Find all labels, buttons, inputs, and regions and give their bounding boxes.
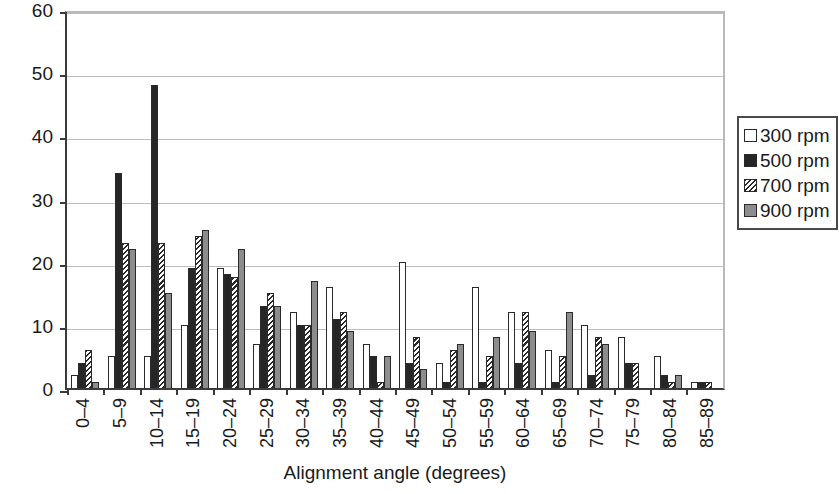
x-tick-mark xyxy=(614,388,616,395)
x-tick-label: 0–4 xyxy=(73,398,94,428)
x-tick-mark xyxy=(504,388,506,395)
x-tick-cell: 35–39 xyxy=(322,398,359,460)
x-tick-cell: 65–69 xyxy=(542,398,579,460)
x-tick-mark xyxy=(395,388,397,395)
y-tick-mark xyxy=(60,391,67,393)
x-tick-mark xyxy=(249,388,251,395)
y-tick-label: 40 xyxy=(0,126,58,148)
x-tick-label: 65–69 xyxy=(550,398,571,448)
bar xyxy=(661,375,668,388)
white-square-icon xyxy=(744,129,757,142)
bar-group xyxy=(67,13,103,388)
bar xyxy=(202,230,209,388)
bar xyxy=(420,369,427,388)
x-tick-mark xyxy=(140,388,142,395)
legend-item-label: 300 rpm xyxy=(760,125,830,147)
x-tick-mark xyxy=(322,388,324,395)
x-tick-mark xyxy=(577,388,579,395)
bar xyxy=(181,325,188,388)
bar xyxy=(297,325,304,388)
bar xyxy=(340,312,347,388)
x-tick-label: 70–74 xyxy=(586,398,607,448)
bar xyxy=(224,274,231,388)
bar xyxy=(698,382,705,388)
bar xyxy=(545,350,552,388)
x-tick-cell: 80–84 xyxy=(652,398,689,460)
bar xyxy=(384,356,391,388)
y-axis-tick-labels: 0102030405060 xyxy=(0,0,58,494)
bar-group xyxy=(213,13,249,388)
y-tick-mark xyxy=(60,12,67,14)
x-tick-label: 30–34 xyxy=(293,398,314,448)
x-tick-cell: 5–9 xyxy=(102,398,139,460)
black-square-icon xyxy=(744,154,757,167)
legend: 300 rpm500 rpm700 rpm900 rpm xyxy=(737,116,838,230)
bar xyxy=(151,85,158,388)
plot-area xyxy=(65,11,725,390)
x-tick-label: 55–59 xyxy=(476,398,497,448)
bar xyxy=(78,363,85,388)
x-tick-cell: 55–59 xyxy=(468,398,505,460)
bar xyxy=(144,356,151,388)
legend-item-label: 700 rpm xyxy=(760,175,830,197)
x-tick-label: 75–79 xyxy=(623,398,644,448)
bar xyxy=(122,243,129,388)
bar xyxy=(581,325,588,388)
bar xyxy=(399,262,406,388)
x-tick-mark xyxy=(67,388,69,395)
y-tick-mark xyxy=(60,202,67,204)
gray-square-icon xyxy=(744,204,757,217)
x-axis-tick-labels: 0–45–910–1415–1920–2425–2930–3435–3940–4… xyxy=(65,398,725,460)
bar xyxy=(705,382,712,388)
x-tick-label: 60–64 xyxy=(513,398,534,448)
x-tick-cell: 25–29 xyxy=(248,398,285,460)
bar xyxy=(260,306,267,388)
bar-group xyxy=(322,13,358,388)
bar xyxy=(625,363,632,388)
bar xyxy=(363,344,370,388)
bar xyxy=(370,356,377,388)
legend-item-label: 500 rpm xyxy=(760,150,830,172)
bar xyxy=(588,375,595,388)
bar xyxy=(108,356,115,388)
bar xyxy=(347,331,354,388)
bar xyxy=(267,293,274,388)
bar-group xyxy=(249,13,285,388)
bar xyxy=(165,293,172,388)
x-tick-label: 80–84 xyxy=(660,398,681,448)
bar xyxy=(450,350,457,388)
x-tick-cell: 75–79 xyxy=(615,398,652,460)
bar xyxy=(675,375,682,388)
bar xyxy=(508,312,515,388)
bar-group xyxy=(431,13,467,388)
x-tick-mark xyxy=(213,388,215,395)
bar xyxy=(436,363,443,388)
bar-group xyxy=(614,13,650,388)
bar xyxy=(595,337,602,388)
bar xyxy=(326,287,333,388)
bar xyxy=(522,312,529,388)
bar-group xyxy=(577,13,613,388)
bar xyxy=(515,363,522,388)
x-tick-label: 35–39 xyxy=(330,398,351,448)
bar-group xyxy=(395,13,431,388)
x-tick-mark xyxy=(468,388,470,395)
x-tick-label: 5–9 xyxy=(110,398,131,428)
bar xyxy=(632,363,639,388)
bar xyxy=(217,268,224,388)
bar xyxy=(253,344,260,388)
bar xyxy=(71,375,78,388)
bar xyxy=(457,344,464,388)
x-tick-mark xyxy=(686,388,688,395)
y-tick-mark xyxy=(60,75,67,77)
y-tick-label: 50 xyxy=(0,63,58,85)
x-tick-cell: 15–19 xyxy=(175,398,212,460)
x-tick-mark xyxy=(431,388,433,395)
x-tick-mark xyxy=(103,388,105,395)
x-tick-cell: 70–74 xyxy=(578,398,615,460)
bar xyxy=(188,268,195,388)
bar xyxy=(566,312,573,388)
y-tick-mark xyxy=(60,138,67,140)
bar xyxy=(311,281,318,388)
x-axis-title: Alignment angle (degrees) xyxy=(65,462,725,484)
